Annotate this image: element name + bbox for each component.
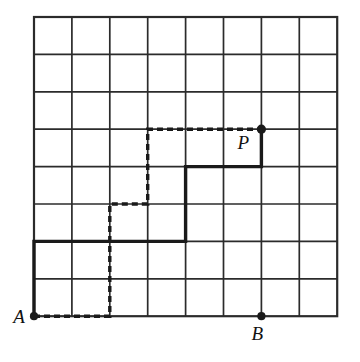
- lattice-grid-figure: ABP: [0, 0, 360, 362]
- point-label-b: B: [252, 323, 264, 344]
- point-dot-p: [257, 125, 266, 134]
- point-dot-b: [257, 312, 265, 320]
- point-label-p: P: [237, 132, 250, 153]
- point-dot-a: [30, 312, 38, 320]
- point-layer: ABP: [11, 125, 266, 345]
- figure-container: ABP: [0, 0, 360, 362]
- point-label-a: A: [11, 306, 25, 327]
